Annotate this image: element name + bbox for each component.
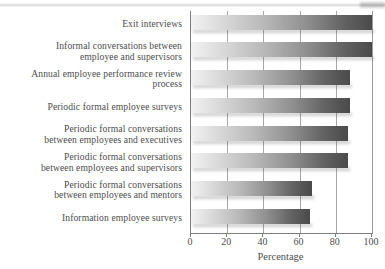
bar-slot xyxy=(191,67,372,95)
bar-shadow xyxy=(193,168,350,172)
category-label-line: between employees and supervisors xyxy=(0,163,182,174)
bar xyxy=(191,153,348,168)
category-label: Exit interviews xyxy=(0,19,182,30)
horizontal-bar-chart: Exit interviewsInformal conversations be… xyxy=(0,0,385,269)
category-label-line: Information employee surveys xyxy=(62,212,182,223)
category-label-line: Exit interviews xyxy=(122,18,182,29)
bar xyxy=(191,181,312,196)
bar xyxy=(191,126,348,141)
category-label: Annual employee performance reviewproces… xyxy=(0,69,182,90)
category-label: Periodic formal employee surveys xyxy=(0,102,182,113)
bar xyxy=(191,209,310,224)
bar-slot xyxy=(191,150,372,178)
category-axis: Exit interviewsInformal conversations be… xyxy=(0,11,186,233)
bar xyxy=(191,15,372,30)
bar-shadow xyxy=(193,30,374,34)
x-tick-label: 80 xyxy=(330,236,340,248)
bar xyxy=(191,42,372,57)
category-label-line: employee and supervisors xyxy=(0,52,182,63)
bar-shadow xyxy=(193,113,352,117)
category-label-line: Periodic formal conversations xyxy=(64,151,182,162)
category-label-line: Periodic formal employee surveys xyxy=(47,101,182,112)
category-label-line: Periodic formal conversations xyxy=(64,123,182,134)
bar-shadow xyxy=(193,85,352,89)
x-tick-label: 60 xyxy=(294,236,304,248)
bar-slot xyxy=(191,11,372,39)
bar-shadow xyxy=(193,141,350,145)
bars-layer xyxy=(191,11,372,233)
category-label-line: between employees and executives xyxy=(0,135,182,146)
x-tick-label: 0 xyxy=(188,236,193,248)
category-label-line: Annual employee performance review xyxy=(31,68,182,79)
bar xyxy=(191,98,350,113)
bar-slot xyxy=(191,205,372,233)
x-tick-label: 100 xyxy=(364,236,379,248)
bar-slot xyxy=(191,39,372,67)
bar-slot xyxy=(191,94,372,122)
category-label: Informal conversations betweenemployee a… xyxy=(0,41,182,62)
bar-shadow xyxy=(193,57,374,61)
category-label-line: process xyxy=(0,79,182,90)
bar xyxy=(191,70,350,85)
category-label: Periodic formal conversationsbetween emp… xyxy=(0,180,182,201)
x-tick-label: 20 xyxy=(221,236,231,248)
bar-slot xyxy=(191,178,372,206)
category-label: Periodic formal conversationsbetween emp… xyxy=(0,124,182,145)
bar-slot xyxy=(191,122,372,150)
category-label: Periodic formal conversationsbetween emp… xyxy=(0,152,182,173)
category-label: Information employee surveys xyxy=(0,213,182,224)
bar-shadow xyxy=(193,196,314,200)
plot-area xyxy=(190,11,373,234)
x-tick-label: 40 xyxy=(257,236,267,248)
x-axis-title: Percentage xyxy=(190,251,371,262)
x-axis-ticks: 020406080100 xyxy=(190,234,371,240)
category-label-line: Periodic formal conversations xyxy=(64,179,182,190)
category-label-line: Informal conversations between xyxy=(56,40,182,51)
bar-shadow xyxy=(193,224,312,228)
category-label-line: between employees and mentors xyxy=(0,190,182,201)
